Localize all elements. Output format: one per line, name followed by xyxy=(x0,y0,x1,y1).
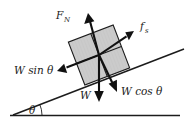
friction-force-arrowhead xyxy=(125,31,134,40)
inclined-plane-figure: θ F N f s W W xyxy=(0,0,187,130)
angle-arc xyxy=(40,104,42,115)
weight-perpendicular-label: W cos θ xyxy=(121,85,163,97)
normal-force-label: F xyxy=(55,9,64,21)
weight-parallel-label: W sin θ xyxy=(14,64,54,76)
normal-force-subscript: N xyxy=(63,16,71,24)
weight-label: W xyxy=(80,89,92,101)
friction-force-subscript: s xyxy=(145,27,149,35)
weight-parallel-arrowhead xyxy=(57,64,67,73)
normal-force-arrowhead xyxy=(84,13,94,24)
incline-angle-label: θ xyxy=(29,104,36,116)
figure-canvas: θ F N f s W W xyxy=(0,0,187,130)
weight-arrowhead xyxy=(94,91,104,102)
